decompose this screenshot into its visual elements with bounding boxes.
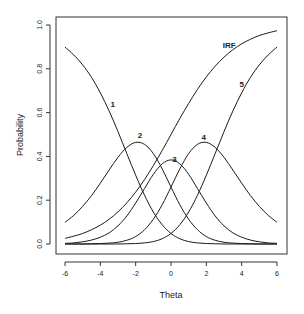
y-axis-label: Probability: [15, 113, 25, 156]
y-tick-label: 0.6: [36, 108, 43, 118]
plot-frame: [56, 17, 287, 254]
y-tick-label: 1.0: [36, 20, 43, 30]
y-tick-label: 0.4: [36, 151, 43, 161]
x-axis-label: Theta: [159, 290, 182, 300]
y-tick-label: 0.2: [36, 195, 43, 205]
x-tick-label: 0: [169, 270, 173, 277]
y-tick-label: 0.0: [36, 239, 43, 249]
y-tick-label: 0.8: [36, 64, 43, 74]
curves: [65, 31, 277, 244]
x-tick-label: -6: [62, 270, 68, 277]
curve-label-3: 3: [172, 155, 177, 164]
x-tick-label: 4: [240, 270, 244, 277]
curve-label-4: 4: [201, 133, 206, 142]
curve-label-2: 2: [138, 131, 143, 140]
probability-chart: -6-4-20246 0.00.20.40.60.81.0 12345IRF T…: [0, 0, 304, 314]
y-axis: 0.00.20.40.60.81.0: [36, 20, 50, 249]
curve-1: [65, 47, 277, 244]
curve-5: [65, 47, 277, 244]
curve-label-5: 5: [239, 80, 244, 89]
curve-2: [65, 142, 277, 244]
curve-3: [65, 160, 277, 243]
curve-label-1: 1: [110, 100, 115, 109]
curve-4: [65, 142, 277, 244]
curve-irf: [65, 31, 277, 239]
x-axis: -6-4-20246: [62, 262, 279, 277]
x-tick-label: 6: [275, 270, 279, 277]
curve-label-irf: IRF: [223, 41, 236, 50]
x-tick-label: 2: [204, 270, 208, 277]
x-tick-label: -4: [97, 270, 103, 277]
x-tick-label: -2: [133, 270, 139, 277]
